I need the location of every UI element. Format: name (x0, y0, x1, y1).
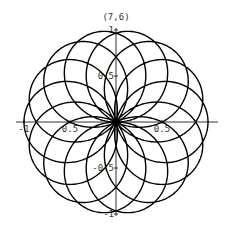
rose-plot: (7,6) -10.50.510.5-0.5-1 (0, 0, 230, 233)
y-tick-label: -0.5 (92, 163, 114, 173)
plot-canvas: (7,6) -10.50.510.5-0.5-1 (0, 0, 230, 233)
plot-title: (7,6) (102, 12, 129, 22)
y-tick-label: -1 (103, 209, 114, 219)
